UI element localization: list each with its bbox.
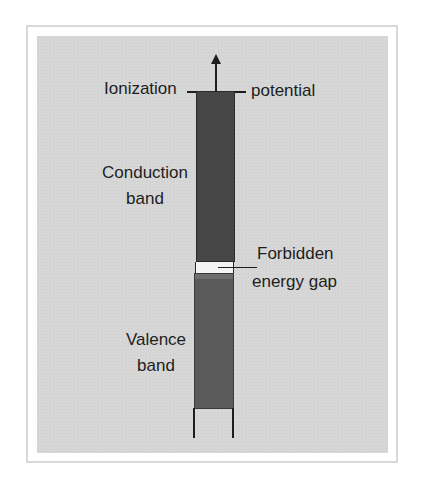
forbidden-gap-label-line2: energy gap [252, 272, 337, 292]
conduction-band-label-line2: band [95, 189, 195, 209]
valence-band-label-line1: Valence [106, 330, 206, 350]
valence-band-top-edge [195, 274, 233, 279]
forbidden-gap-label-line1: Forbidden [257, 244, 334, 264]
ionization-arrow-shaft [215, 61, 217, 91]
ionization-label: Ionization [104, 79, 177, 99]
gap-leader-line [218, 267, 257, 268]
potential-label: potential [251, 81, 315, 101]
arrow-up-icon [211, 54, 221, 64]
valence-band-label-line2: band [106, 356, 206, 376]
conduction-band [196, 91, 235, 262]
lower-right-leg [232, 408, 234, 438]
conduction-band-label-line1: Conduction [95, 163, 195, 183]
lower-left-leg [193, 408, 195, 438]
